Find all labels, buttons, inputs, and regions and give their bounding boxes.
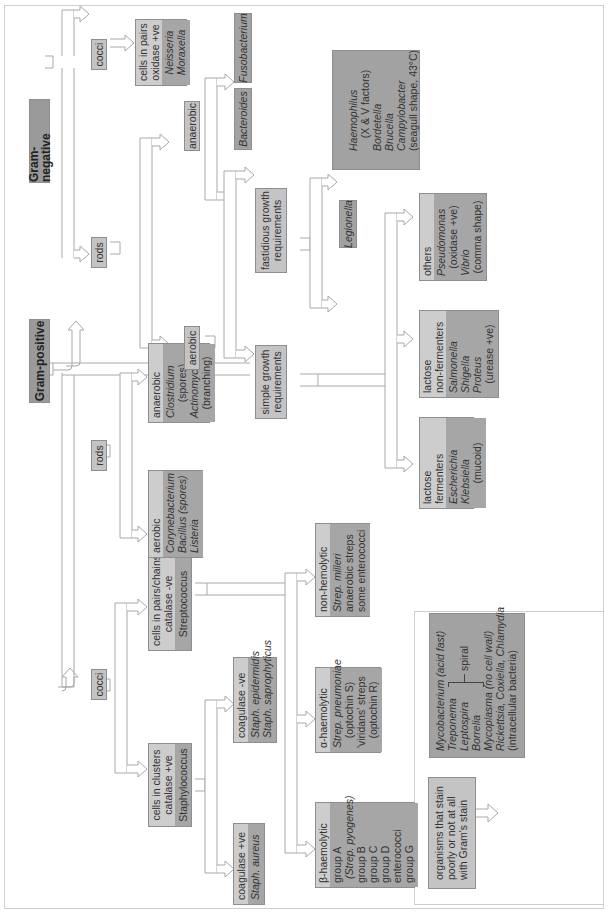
staph-branch [205,700,217,873]
gn-anaerobic-branch [205,78,217,200]
urease-positive: (urease +ve) [483,315,495,393]
gp-anaerobic-box: anaerobic Clostridium (spores) Actinomyc… [148,343,210,423]
gram-positive-title-text: Gram-positive [34,321,46,402]
arrow-to-fusobacterium [217,74,234,90]
escherichia: Escherichia [447,422,459,504]
poor-stain-line-1: organisms that stain [433,786,445,880]
vibrio: Vibrio [459,198,471,276]
clusters-box: cells in clusters catalase +ve Staphyloc… [148,743,192,827]
gram-positive-title: Gram-positive [29,319,50,403]
gn-pairs-header: cells in pairs oxidase +ve [136,20,162,85]
bacteroides-box: Bacteroides [234,88,252,150]
strep-pyogenes: (Strep. pyogenes) [343,807,355,883]
proteus: Proteus [471,315,483,393]
fastidious-branch [310,178,322,308]
group-g: group G [403,807,415,883]
beta-list: group A (Strep. pyogenes) group B group … [330,803,418,887]
staph-saprophyticus: Staph. saprophyticus [261,662,273,738]
poor-stain-line-3: with Gram's stain [457,786,469,880]
alpha-header: α-haemolytic [316,668,330,752]
chains-line-2: catalase -ve [162,562,174,646]
spiral-bracket [448,682,484,687]
non-fermenters-header: lactose non-fermenters [420,311,446,397]
fastidious-line-2: requirements [271,200,283,261]
gn-aerobic-box: aerobic [184,326,200,370]
clusters-header: cells in clusters catalase +ve [149,744,175,826]
strep-pneumoniae: Strep. pneumoniae [331,672,343,748]
gn-stub [45,56,53,68]
lactose-fermenters-header: lactose fermenters [420,418,446,508]
lactose-fermenters-list: Escherichia Klebsiella (mucoid) [446,418,486,508]
gp-trunk [62,373,74,687]
shigella: Shigella [459,315,471,393]
gn-pairs-line-2: oxidase +ve [149,24,161,81]
group-c: group C [367,807,379,883]
gn-anaerobic-label: anaerobic [186,103,198,149]
arrow-to-chains [127,599,147,615]
fastidious-line-1: fastidious growth [259,191,271,270]
others-list: Pseudomonas (oxidase +ve) Vibrio (comma … [434,194,486,280]
beta-header: β-haemolytic [316,803,330,887]
gn-trunk [62,10,74,258]
gn-cocci-label: cocci [93,43,105,67]
bacillus: Bacillus (spores) [176,475,188,553]
xv-factors: (X & V factors) [359,57,371,151]
neisseria: Neisseria [163,24,175,81]
alpha-box: α-haemolytic Strep. pneumoniae (optochin… [315,667,381,753]
staph-epidermidis: Staph. epidermidis [249,662,261,738]
gp-aerobic-header: aerobic [149,471,163,557]
arrow-to-lactose-fermenters [397,456,413,472]
bacteroides: Bacteroides [237,91,249,146]
gp-arrow-to-cocci [58,668,78,691]
mycobacterium: Mycobacterium (acid fast) [434,631,446,751]
arrow-to-coag-pos [217,861,234,877]
gp-rods-box: rods [91,440,107,471]
poor-stain-box: organisms that stain poorly or not at al… [428,777,476,889]
fastidious-box: fastidious growth requirements [255,188,287,273]
gn-rods-label: rods [93,242,105,262]
haemophilus: Haemophilus [347,57,359,151]
poor-stain-organisms-box: Mycobacterium (acid fast) Treponema Lept… [429,613,525,758]
gram-negative-title: Gram-negative [29,99,50,183]
spiral-connector [464,674,465,682]
non-haemolytic-list: Strep. milleri anaerobic streps some ent… [330,524,370,616]
arrow-to-others [397,209,413,225]
gp-rods-label: rods [93,445,105,465]
gn-aerobic-branch [224,171,236,358]
diagram-canvas: Gram-positive Gram-negative cocci rods c… [0,0,609,913]
comma-shape: (comma shape) [471,198,483,276]
poor-stain-line-2: poorly or not at all [445,786,457,880]
clusters-line-1: cells in clusters [150,748,162,822]
gn-arrow-to-rods [74,246,89,262]
group-b: group B [355,807,367,883]
clusters-genus: Staphylococcus [175,744,191,826]
gp-cocci-box: cocci [91,669,107,700]
arrow-to-beta [297,841,315,857]
arrow-to-gp-aerobic [132,526,147,542]
simple-branch [318,213,397,468]
staphylococcus-label: Staphylococcus [177,748,189,822]
intracellular-bacteria: (intracellular bacteria) [506,620,518,751]
alpha-list: Strep. pneumoniae (optochin S) 'viridans… [330,668,382,752]
some-enterococci: some enterococci [355,528,367,612]
mycobacterium-line: Mycobacterium (acid fast) [434,620,446,751]
simple-box: simple growth requirements [255,345,287,419]
arrow-to-legionella [322,296,337,312]
anaerobic-streps: anaerobic streps [343,528,355,612]
strep-milleri: Strep. milleri [331,528,343,612]
group-d: group D [379,807,391,883]
gn-pairs-list: Neisseria Moraxella [162,20,190,85]
brucella: Brucella [383,57,395,151]
arrow-to-gn-anaerobic [152,134,169,150]
haemophilus-box: Haemophilus (X & V factors) Bordetella B… [332,50,420,170]
strep-stub [195,583,207,595]
staph-aureus: Staph. aureus [248,824,264,904]
coag-pos-box: coagulase +ve Staph. aureus [233,823,265,905]
coag-neg-list: Staph. epidermidis Staph. saprophyticus [248,658,276,742]
arrow-to-simple [236,346,254,362]
clostridium: Clostridium [164,348,176,418]
bordetella: Bordetella [371,57,383,151]
gn-cocci-box: cocci [91,39,107,70]
gn-rods-box: rods [91,237,107,268]
gn-anaerobic-box: anaerobic [184,101,200,151]
